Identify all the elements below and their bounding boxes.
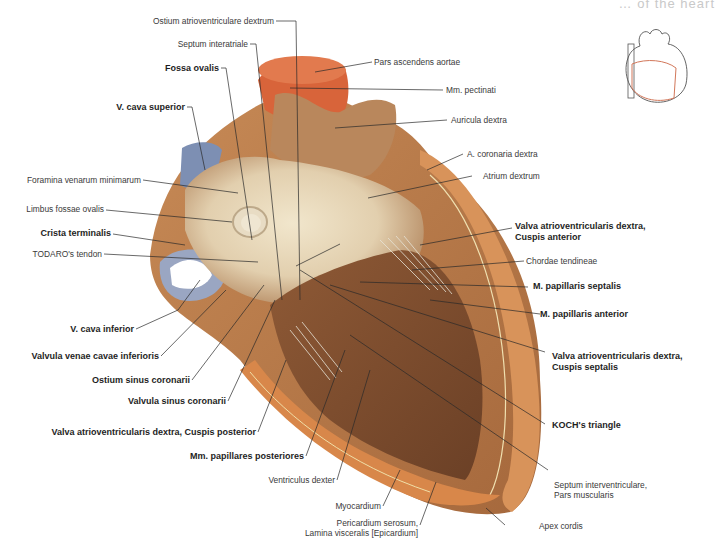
label-cuspis-anterior-l1: Valva atrioventricularis dextra, (515, 221, 646, 231)
label-mm-pectinati: Mm. pectinati (446, 85, 496, 95)
label-limbus-fossae-ovalis: Limbus fossae ovalis (10, 204, 104, 214)
label-myocardium: Myocardium (300, 501, 381, 511)
label-crista-terminalis: Crista terminalis (10, 228, 111, 238)
label-lamina-visceralis: Lamina visceralis [Epicardium] (300, 528, 418, 538)
heart-illustration (0, 0, 721, 557)
label-cuspis-septalis-l1: Valva atrioventricularis dextra, (552, 351, 683, 361)
label-m-papillaris-septalis: M. papillaris septalis (533, 281, 621, 291)
label-a-coronaria-dextra: A. coronaria dextra (467, 149, 538, 159)
label-cuspis-posterior: Valva atrioventricularis dextra, Cuspis … (10, 427, 256, 437)
label-ostium-sinus-coronarii: Ostium sinus coronarii (40, 375, 190, 385)
label-mm-papillares-posteriores: Mm. papillares posteriores (150, 451, 304, 461)
label-foramina-venarum-minimarum: Foramina venarum minimarum (10, 175, 141, 185)
label-v-cava-superior: V. cava superior (80, 102, 185, 112)
label-septum-interatriale: Septum interatriale (150, 39, 248, 49)
label-septum-interventriculare-l1: Septum interventriculare, (554, 480, 647, 490)
label-septum-interventriculare-l2: Pars muscularis (554, 490, 614, 500)
label-pericardium-serosum: Pericardium serosum, (300, 518, 418, 528)
label-apex-cordis: Apex cordis (539, 521, 583, 531)
label-atrium-dextrum: Atrium dextrum (483, 171, 540, 181)
label-ostium-atrioventriculare-dextrum: Ostium atrioventriculare dextrum (150, 16, 274, 26)
label-fossa-ovalis: Fossa ovalis (120, 63, 219, 73)
label-m-papillaris-anterior: M. papillaris anterior (540, 309, 628, 319)
label-auricula-dextra: Auricula dextra (451, 115, 507, 125)
label-pars-ascendens-aortae: Pars ascendens aortae (374, 57, 460, 67)
label-ventriculus-dexter: Ventriculus dexter (230, 475, 335, 485)
label-chordae-tendineae: Chordae tendineae (526, 256, 597, 266)
fossa-ovalis (233, 207, 267, 237)
label-todaros-tendon: TODARO's tendon (10, 249, 102, 259)
label-cuspis-anterior-l2: Cuspis anterior (515, 232, 581, 242)
orientation-thumbnail (616, 24, 696, 106)
label-valvula-sinus-coronarii: Valvula sinus coronarii (80, 396, 226, 406)
label-valvula-venae-cavae-inferioris: Valvula venae cavae inferioris (10, 351, 159, 361)
label-kochs-triangle: KOCH's triangle (552, 420, 621, 430)
label-v-cava-inferior: V. cava inferior (20, 324, 134, 334)
label-cuspis-septalis-l2: Cuspis septalis (552, 362, 618, 372)
